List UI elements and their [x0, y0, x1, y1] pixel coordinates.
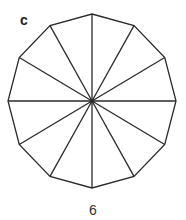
figure-caption: 6: [0, 203, 186, 217]
radial-line: [19, 58, 92, 102]
center-point: [90, 99, 94, 103]
radial-line: [92, 101, 134, 176]
radial-line: [50, 101, 92, 176]
radial-line: [50, 26, 92, 101]
dodecagon-diagram: [0, 0, 186, 220]
radial-line: [92, 26, 134, 101]
radial-line: [19, 101, 92, 145]
radial-line: [92, 101, 165, 145]
radial-line: [92, 58, 165, 102]
